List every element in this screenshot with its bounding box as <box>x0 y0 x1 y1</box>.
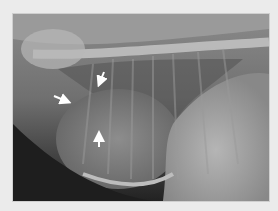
radiograph-graphic <box>13 14 269 201</box>
radiograph-image <box>13 14 269 201</box>
